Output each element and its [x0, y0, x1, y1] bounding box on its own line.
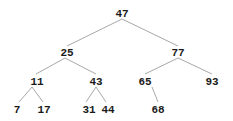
tree-edges — [19, 19, 212, 102]
tree-nodes: 47 25 77 11 43 65 93 7 17 31 44 68 — [14, 8, 219, 116]
node-93: 93 — [205, 76, 219, 88]
tree-edge — [86, 87, 96, 102]
tree-edge — [67, 19, 122, 46]
tree-edge — [96, 87, 106, 102]
node-65: 65 — [138, 76, 152, 88]
node-17: 17 — [37, 104, 50, 116]
tree-edge — [152, 87, 158, 102]
node-25: 25 — [60, 47, 74, 59]
tree-edge — [36, 58, 65, 74]
tree-edge — [19, 87, 32, 102]
node-44: 44 — [101, 104, 115, 116]
node-11: 11 — [30, 76, 44, 88]
node-43: 43 — [89, 76, 103, 88]
tree-edge — [178, 58, 212, 74]
node-47: 47 — [115, 8, 128, 20]
tree-edge — [65, 58, 96, 74]
tree-edge — [122, 19, 178, 46]
node-77: 77 — [171, 47, 184, 59]
binary-search-tree: 47 25 77 11 43 65 93 7 17 31 44 68 — [0, 0, 233, 121]
node-31: 31 — [82, 104, 96, 116]
tree-edge — [32, 87, 43, 102]
node-7: 7 — [14, 104, 21, 116]
node-68: 68 — [151, 104, 165, 116]
tree-edge — [145, 58, 178, 74]
